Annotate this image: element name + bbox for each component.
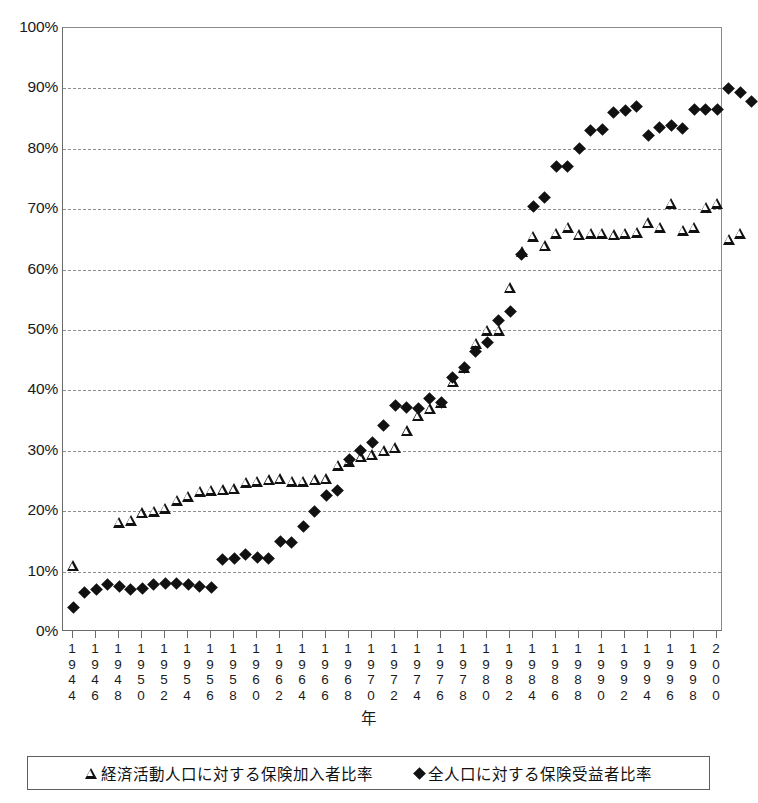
data-point-enrollment [67,560,79,571]
y-axis: 0%10%20%30%40%50%60%70%80%90%100% [0,27,58,631]
x-axis-tick-label: 1956 [201,641,219,703]
data-point-enrollment [366,449,378,460]
data-point-beneficiary [205,581,218,594]
legend-entry-enrollment: 経済活動人口に対する保険加入者比率 [85,762,373,784]
x-axis-tick-label: 2000 [707,641,725,703]
x-axis-tick-label: 1960 [247,641,265,703]
y-axis-tick-label: 0% [2,622,58,640]
x-axis-tick [417,631,418,638]
data-point-beneficiary [573,142,586,155]
x-axis-tick-label: 1998 [684,641,702,703]
data-point-beneficiary [320,489,333,502]
x-axis-tick-label: 1980 [477,641,495,703]
x-axis-tick [486,631,487,638]
data-point-beneficiary [389,399,402,412]
x-axis-tick [670,631,671,638]
x-axis-tick-label: 1964 [293,641,311,703]
data-point-enrollment [608,229,620,240]
data-point-beneficiary [538,191,551,204]
data-point-enrollment [596,228,608,239]
y-axis-tick-label: 30% [2,441,58,459]
data-point-beneficiary [699,103,712,116]
x-axis-tick-label: 1958 [224,641,242,703]
x-axis-title: 年 [0,706,738,728]
data-point-beneficiary [170,577,183,590]
data-point-beneficiary [561,161,574,174]
y-axis-tick-label: 20% [2,501,58,519]
x-axis-tick [72,631,73,638]
data-point-enrollment [642,217,654,228]
data-point-beneficiary [653,121,666,134]
gridline [63,149,721,150]
data-point-enrollment [562,222,574,233]
x-axis-tick-label: 1954 [178,641,196,703]
data-point-enrollment [378,445,390,456]
x-axis-tick [624,631,625,638]
x-axis-tick [256,631,257,638]
data-point-beneficiary [297,520,310,533]
x-axis-tick [463,631,464,638]
data-point-beneficiary [711,103,724,116]
x-axis-tick [164,631,165,638]
data-point-beneficiary [642,129,655,142]
x-axis-tick [141,631,142,638]
data-point-beneficiary [504,306,517,319]
data-point-beneficiary [527,200,540,213]
data-point-enrollment [700,202,712,213]
x-axis-tick-label: 1952 [155,641,173,703]
data-point-enrollment [251,476,263,487]
data-point-enrollment [274,473,286,484]
data-point-beneficiary [113,580,126,593]
x-axis-tick [95,631,96,638]
x-axis-tick [716,631,717,638]
data-point-enrollment [631,227,643,238]
x-axis-tick [371,631,372,638]
y-axis-tick-label: 100% [2,18,58,36]
data-point-enrollment [401,425,413,436]
x-axis-tick-label: 1970 [362,641,380,703]
x-axis-tick-label: 1946 [86,641,104,703]
gridline [63,88,721,89]
x-axis-tick [279,631,280,638]
data-point-enrollment [711,198,723,209]
x-axis-tick-label: 1968 [339,641,357,703]
data-point-beneficiary [377,419,390,432]
data-point-beneficiary [251,551,264,564]
data-point-beneficiary [124,583,137,596]
gridline [63,209,721,210]
x-axis-tick-label: 1962 [270,641,288,703]
data-point-beneficiary [331,484,344,497]
x-axis-tick-label: 1992 [615,641,633,703]
x-axis-tick-label: 1990 [592,641,610,703]
data-point-enrollment [159,503,171,514]
x-axis-tick [578,631,579,638]
data-point-enrollment [654,222,666,233]
chart-legend: 経済活動人口に対する保険加入者比率 全人口に対する保険受益者比率 [27,756,710,790]
data-point-beneficiary [308,505,321,518]
x-axis-tick-label: 1986 [546,641,564,703]
legend-entry-beneficiary: 全人口に対する保険受益者比率 [415,762,652,784]
data-point-beneficiary [182,579,195,592]
data-point-beneficiary [90,583,103,596]
data-point-beneficiary [745,95,758,108]
data-point-enrollment [194,486,206,497]
data-point-beneficiary [734,86,747,99]
x-axis-tick [348,631,349,638]
data-point-beneficiary [216,553,229,566]
x-axis-tick-label: 1976 [431,641,449,703]
data-point-enrollment [320,473,332,484]
data-point-enrollment [527,231,539,242]
data-point-beneficiary [400,401,413,414]
gridline [63,572,721,573]
data-point-beneficiary [78,586,91,599]
x-axis-tick [647,631,648,638]
data-point-enrollment [148,506,160,517]
data-point-enrollment [573,229,585,240]
x-axis-tick [187,631,188,638]
data-point-enrollment [228,483,240,494]
data-point-beneficiary [676,122,689,135]
data-point-enrollment [136,507,148,518]
x-axis-tick-label: 1984 [523,641,541,703]
data-point-enrollment [309,474,321,485]
